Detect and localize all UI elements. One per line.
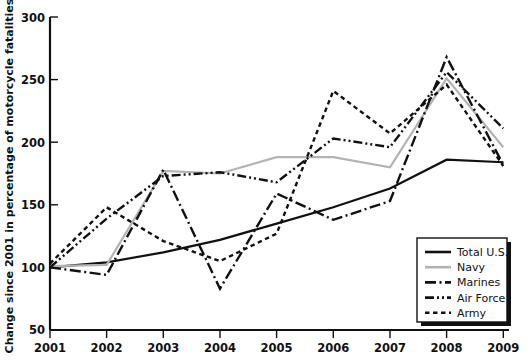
- x-tick-label: 2006: [317, 341, 349, 355]
- y-tick-label: 100: [21, 261, 45, 275]
- x-tick-label: 2003: [147, 341, 179, 355]
- x-axis-tick-labels: 2001 2002 2003 2004 2005 2006 2007 2008 …: [34, 341, 519, 355]
- legend-label-air-force: Air Force: [457, 292, 506, 305]
- x-tick-label: 2009: [487, 341, 519, 355]
- y-tick-label: 250: [21, 73, 45, 87]
- legend-label-total-u-s: Total U.S.: [456, 246, 508, 259]
- x-tick-label: 2004: [204, 341, 236, 355]
- x-tick-label: 2007: [374, 341, 406, 355]
- chart-container: Change since 2001 in percentage of motor…: [0, 0, 528, 360]
- x-tick-label: 2002: [91, 341, 123, 355]
- legend-label-navy: Navy: [457, 261, 485, 274]
- legend-label-marines: Marines: [457, 276, 501, 289]
- y-tick-label: 300: [21, 11, 45, 25]
- x-tick-label: 2001: [34, 341, 66, 355]
- x-tick-label: 2008: [431, 341, 463, 355]
- line-chart: Change since 2001 in percentage of motor…: [0, 0, 528, 360]
- y-tick-label: 200: [21, 136, 45, 150]
- y-axis-title: Change since 2001 in percentage of motor…: [3, 0, 16, 353]
- chart-legend: Total U.S.NavyMarinesAir ForceArmy: [417, 238, 511, 326]
- x-tick-label: 2005: [261, 341, 293, 355]
- y-tick-label: 150: [21, 198, 45, 212]
- y-tick-label: 50: [29, 323, 45, 337]
- legend-label-army: Army: [457, 307, 487, 320]
